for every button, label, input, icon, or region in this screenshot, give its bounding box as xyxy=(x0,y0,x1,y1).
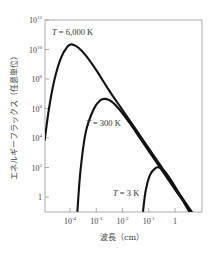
x-tick-label: 10-2 xyxy=(116,216,129,226)
x-axis-ticks: 10-410-310-210-11 xyxy=(64,208,177,226)
x-axis-title: 波長（cm） xyxy=(100,232,144,242)
y-tick-label: 1010 xyxy=(29,45,43,55)
curve-label: T = 6,000 K xyxy=(52,27,94,37)
x-tick-label: 10-4 xyxy=(64,216,77,226)
y-tick-label: 102 xyxy=(32,163,43,173)
y-tick-label: 1 xyxy=(38,193,42,202)
y-axis-ticks: 101210101081061041021 xyxy=(29,15,49,202)
curve-0 xyxy=(45,44,202,226)
x-tick-label: 10-1 xyxy=(143,216,156,226)
curve-label: T = 3 K xyxy=(113,188,140,198)
x-tick-label: 1 xyxy=(173,217,177,226)
blackbody-spectrum-chart: 101210101081061041021 10-410-310-210-11 … xyxy=(0,0,215,253)
curve-2 xyxy=(143,167,189,212)
spectrum-curves xyxy=(45,44,202,229)
y-tick-label: 106 xyxy=(32,104,43,114)
curve-label: T = 300 K xyxy=(86,118,122,128)
y-tick-label: 104 xyxy=(32,133,43,143)
y-tick-label: 108 xyxy=(32,74,43,84)
x-tick-label: 10-3 xyxy=(90,216,103,226)
y-tick-label: 1012 xyxy=(29,15,43,25)
curve-labels: T = 6,000 KT = 300 KT = 3 K xyxy=(52,27,140,198)
y-axis-title: エネルギーフラックス（任意単位） xyxy=(9,52,19,180)
